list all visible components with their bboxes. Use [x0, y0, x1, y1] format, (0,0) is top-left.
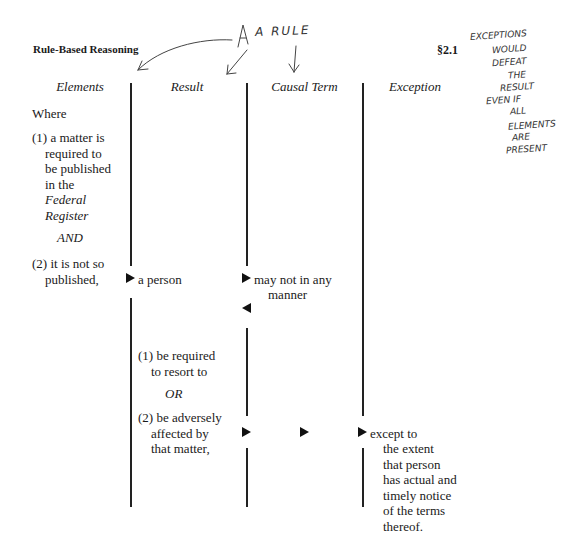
margin-note-line-4: THE	[508, 69, 527, 81]
margin-note-line-7: ALL	[510, 105, 527, 117]
handwritten-arrows	[0, 0, 582, 545]
margin-note-line-9: ARE	[512, 131, 531, 143]
annotation-rule-label: A RULE	[255, 25, 311, 38]
